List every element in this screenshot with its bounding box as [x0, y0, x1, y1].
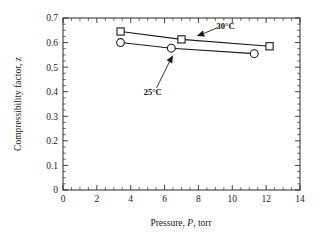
y-tick-label: 0.3	[46, 112, 58, 122]
y-tick-label: 0.5	[46, 63, 58, 73]
x-tick-label: 8	[196, 194, 201, 204]
x-axis-title: Pressure, P, torr	[150, 218, 212, 228]
data-point-circle	[167, 44, 175, 52]
y-tick-label: 0.7	[46, 13, 58, 23]
data-point-square	[266, 43, 273, 50]
y-tick-label: 0	[53, 185, 58, 195]
data-point-circle	[250, 50, 258, 58]
x-tick-label: 2	[94, 194, 99, 204]
x-tick-label: 12	[261, 194, 271, 204]
x-tick-label: 0	[61, 194, 66, 204]
data-point-square	[178, 36, 185, 43]
x-tick-label: 10	[228, 194, 238, 204]
y-tick-label: 0.1	[46, 161, 58, 171]
y-tick-label: 0.4	[46, 87, 58, 97]
x-tick-label: 14	[295, 194, 305, 204]
series-label-25C: 25°C	[144, 87, 162, 97]
x-tick-label: 6	[162, 194, 167, 204]
compressibility-factor-chart: 02468101214 00.10.20.30.40.50.60.7 30°C2…	[0, 0, 320, 238]
data-point-circle	[117, 39, 125, 47]
series-label-30C: 30°C	[216, 21, 234, 31]
x-tick-label: 4	[128, 194, 133, 204]
y-tick-label: 0.2	[46, 136, 58, 146]
data-point-square	[117, 28, 124, 35]
y-tick-label: 0.6	[46, 38, 58, 48]
y-axis-title: Compressibility factor, z	[13, 57, 23, 151]
chart-figure: 02468101214 00.10.20.30.40.50.60.7 30°C2…	[0, 0, 320, 238]
